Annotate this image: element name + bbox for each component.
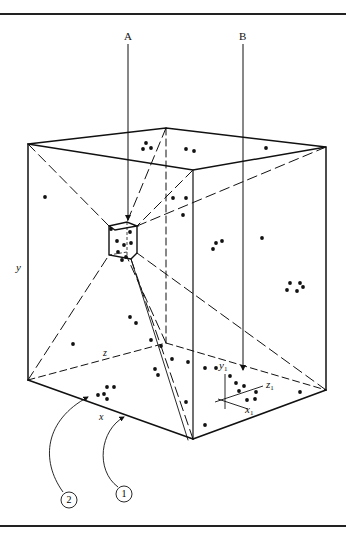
- data-point: [253, 397, 257, 401]
- data-point: [71, 342, 75, 346]
- data-point: [184, 400, 188, 404]
- data-point: [105, 385, 109, 389]
- data-point: [254, 390, 258, 394]
- data-point: [149, 146, 153, 150]
- local-y-label: y1: [219, 360, 227, 373]
- data-point: [228, 374, 232, 378]
- data-point: [159, 344, 163, 348]
- edge-bottom-right: [193, 390, 326, 439]
- data-point: [171, 196, 175, 200]
- data-point: [264, 146, 268, 150]
- callout-1-label: 1: [116, 486, 132, 502]
- data-point: [288, 281, 292, 285]
- data-point: [214, 241, 218, 245]
- data-point: [124, 255, 128, 259]
- data-point: [141, 147, 145, 151]
- callout-2-curve: [49, 397, 88, 492]
- data-point: [144, 141, 148, 145]
- data-point: [115, 239, 119, 243]
- data-point: [128, 315, 132, 319]
- data-point: [112, 385, 116, 389]
- data-point: [260, 236, 264, 240]
- data-point: [43, 195, 47, 199]
- data-point: [186, 360, 190, 364]
- arrow-a-label: A: [124, 31, 132, 42]
- data-point: [285, 288, 289, 292]
- axis-x-label: x: [99, 412, 103, 422]
- data-point: [295, 289, 299, 293]
- data-point: [105, 397, 109, 401]
- data-point: [96, 393, 100, 397]
- data-point: [298, 390, 302, 394]
- small-cube: [109, 222, 137, 259]
- data-point: [245, 398, 249, 402]
- data-point: [301, 285, 305, 289]
- data-point: [203, 366, 207, 370]
- callout-2-label: 2: [61, 492, 77, 508]
- projection-lines: [28, 128, 326, 439]
- local-x-label: x1: [245, 404, 253, 417]
- data-point: [184, 196, 188, 200]
- data-point: [237, 389, 241, 393]
- top-face-edges: [28, 128, 326, 170]
- data-point: [153, 367, 157, 371]
- data-point: [102, 392, 106, 396]
- arrow-b-label: B: [239, 31, 246, 42]
- data-point: [109, 227, 113, 231]
- axis-y-label: y: [16, 262, 21, 273]
- data-point: [128, 230, 132, 234]
- data-point: [192, 149, 196, 153]
- data-point: [203, 423, 207, 427]
- data-point: [156, 373, 160, 377]
- solid-projection-back: [131, 259, 188, 440]
- arrows: [128, 44, 243, 370]
- data-point: [234, 381, 238, 385]
- data-point: [220, 239, 224, 243]
- data-point: [214, 366, 218, 370]
- axis-z-label: z: [103, 348, 107, 358]
- data-point: [120, 258, 124, 262]
- data-point: [122, 243, 126, 247]
- data-point: [149, 338, 153, 342]
- data-point: [134, 321, 138, 325]
- outer-cube: [28, 128, 326, 440]
- data-point: [298, 281, 302, 285]
- data-point: [181, 213, 185, 217]
- data-point: [116, 250, 120, 254]
- data-point: [242, 384, 246, 388]
- data-point: [184, 147, 188, 151]
- cube-diagram: [0, 0, 346, 539]
- local-z-label: z1: [266, 379, 274, 392]
- data-point: [129, 241, 133, 245]
- data-point: [211, 247, 215, 251]
- data-point: [170, 357, 174, 361]
- callout-1-curve: [103, 417, 124, 487]
